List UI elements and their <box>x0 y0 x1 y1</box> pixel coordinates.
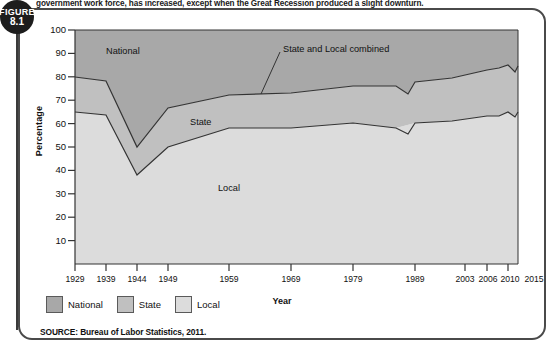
state-local-combined-label: State and Local combined <box>283 44 389 54</box>
y-tick-30: 30 <box>38 188 66 199</box>
source-note: SOURCE: Bureau of Labor Statistics, 2011… <box>40 327 206 337</box>
y-tick-80: 80 <box>38 71 66 82</box>
legend-item-national[interactable]: National <box>46 296 103 313</box>
legend-label-local: Local <box>197 299 220 310</box>
y-tick-50: 50 <box>38 141 66 152</box>
y-tick-90: 90 <box>38 47 66 58</box>
x-tick-2010: 2010 <box>500 274 519 284</box>
x-tick-1989: 1989 <box>405 274 424 284</box>
x-tick-1969: 1969 <box>281 274 300 284</box>
x-tick-1979: 1979 <box>343 274 362 284</box>
legend-swatch-local <box>175 296 192 313</box>
figure-badge-line2: 8.1 <box>10 17 24 27</box>
x-tick-2003: 2003 <box>455 274 474 284</box>
y-tick-10: 10 <box>38 235 66 246</box>
x-tick-labels: 1929 1939 1944 1949 1959 1969 1979 1989 … <box>18 274 546 286</box>
chart-legend: National State Local <box>46 296 227 313</box>
x-tick-1939: 1939 <box>96 274 115 284</box>
state-area-label: State <box>190 117 211 127</box>
x-tick-1959: 1959 <box>219 274 238 284</box>
x-tick-1944: 1944 <box>127 274 146 284</box>
y-tick-60: 60 <box>38 118 66 129</box>
legend-label-state: State <box>139 299 161 310</box>
x-tick-2006: 2006 <box>478 274 497 284</box>
y-tick-40: 40 <box>38 164 66 175</box>
legend-item-state[interactable]: State <box>117 296 161 313</box>
figure-number-badge: FIGURE 8.1 <box>0 0 34 34</box>
x-tick-1929: 1929 <box>65 274 84 284</box>
legend-swatch-national <box>46 296 63 313</box>
national-area-label: National <box>106 46 140 56</box>
chart-area: Percentage <box>18 8 546 340</box>
local-area-label: Local <box>218 183 240 193</box>
y-tick-marks <box>68 30 75 241</box>
y-tick-20: 20 <box>38 211 66 222</box>
y-tick-70: 70 <box>38 94 66 105</box>
x-tick-2015: 2015 <box>524 274 543 284</box>
legend-item-local[interactable]: Local <box>175 296 220 313</box>
legend-label-national: National <box>68 299 103 310</box>
y-tick-100: 100 <box>38 24 66 35</box>
x-tick-1949: 1949 <box>158 274 177 284</box>
x-tick-marks <box>75 264 508 271</box>
legend-swatch-state <box>117 296 134 313</box>
stacked-area-chart <box>18 8 546 340</box>
